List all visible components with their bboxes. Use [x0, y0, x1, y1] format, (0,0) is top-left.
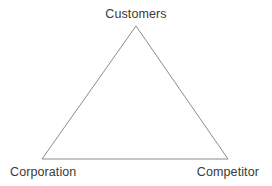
triangle-outline: [42, 26, 228, 159]
node-label-corporation: Corporation: [10, 165, 76, 180]
triangle-diagram: Customers Corporation Competitor: [0, 0, 272, 186]
node-label-customers: Customers: [0, 7, 272, 22]
node-label-competitor: Competitor: [197, 165, 259, 180]
triangle-shape: [0, 0, 272, 186]
